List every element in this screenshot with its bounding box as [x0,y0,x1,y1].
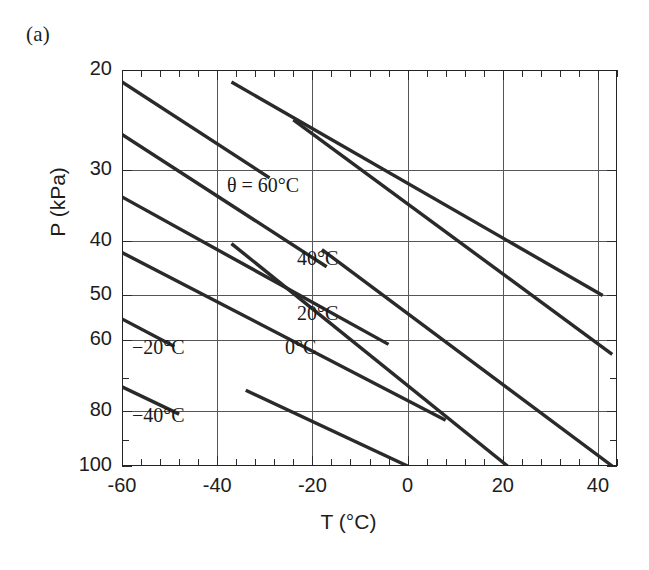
x-tick-label: 40 [563,474,633,497]
y-tick-label: 80 [52,398,112,421]
x-tick-label: -20 [277,474,347,497]
x-tick-minor [617,70,618,77]
isotherm-label-theta-0: 0°C [285,336,316,359]
x-tick-label: -40 [182,474,252,497]
y-tick-major [607,466,617,467]
isotherm-label-theta-60: θ = 60°C [227,174,299,197]
isotherm-label-theta-m20: −20°C [132,336,185,359]
y-tick-label: 30 [52,157,112,180]
x-axis-label: T (°C) [0,510,649,534]
y-tick-major [122,466,132,467]
x-tick-minor [617,459,618,466]
y-tick-label: 60 [52,327,112,350]
isotherm-label-theta-40: 40°C [297,247,338,270]
x-axis-label-text: T (°C) [321,510,377,533]
panel-label: (a) [26,22,50,47]
isotherm-label-theta-20: 20°C [297,302,338,325]
y-tick-label: 50 [52,282,112,305]
x-tick-label: 0 [373,474,443,497]
x-tick-label: 20 [468,474,538,497]
x-tick-label: -60 [87,474,157,497]
figure-panel-a: (a) P (kPa) T (°C) θ = 60°C40°C20°C0°C−2… [0,0,649,570]
y-tick-label: 20 [52,57,112,80]
y-tick-label: 40 [52,228,112,251]
y-tick-label: 100 [52,453,112,476]
plot-area: θ = 60°C40°C20°C0°C−20°C−40°C [122,70,617,466]
y-axis-label: P (kPa) [46,122,70,282]
plot-frame [122,70,617,466]
isotherm-label-theta-m40: −40°C [132,404,185,427]
